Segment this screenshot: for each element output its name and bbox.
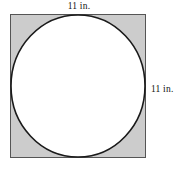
- geometry-figure: 11 in. 11 in.: [0, 0, 186, 170]
- dimension-label-top: 11 in.: [57, 1, 101, 12]
- inscribed-circle: [11, 15, 145, 157]
- dimension-label-right: 11 in.: [151, 84, 174, 95]
